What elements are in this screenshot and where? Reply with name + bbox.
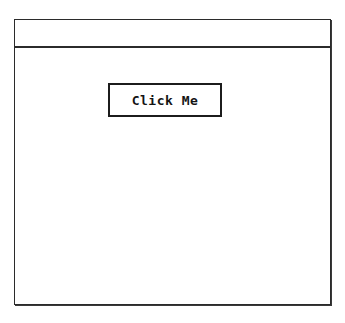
app-window: Click Me (14, 19, 331, 305)
window-title-bar (15, 20, 330, 48)
click-me-button[interactable]: Click Me (108, 83, 222, 117)
click-me-button-label: Click Me (132, 94, 199, 107)
window-content-area: Click Me (15, 48, 330, 302)
